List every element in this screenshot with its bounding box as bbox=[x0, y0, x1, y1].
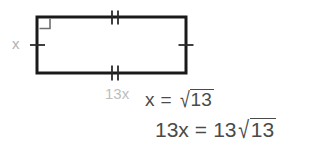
equation-2-radicand: 13 bbox=[250, 118, 276, 140]
right-angle-marker-icon bbox=[40, 19, 51, 29]
equation-2-operator: = bbox=[195, 119, 207, 140]
equation-1-radicand: 13 bbox=[190, 89, 214, 109]
equation-1-radical: √13 bbox=[178, 88, 214, 110]
side-length-label-x: x bbox=[12, 36, 20, 51]
equation-1-lhs: x bbox=[145, 90, 155, 109]
radical-sign-icon: √ bbox=[239, 118, 250, 142]
equation-line-1: x=√13 bbox=[145, 88, 214, 110]
equation-2-coefficient: 13 bbox=[213, 119, 236, 140]
equation-2-radical: √13 bbox=[236, 117, 276, 141]
equation-1-operator: = bbox=[161, 90, 172, 109]
equation-line-2: 13x=13√13 bbox=[155, 117, 276, 141]
base-length-label-13x: 13x bbox=[105, 86, 129, 101]
radical-sign-icon: √ bbox=[180, 89, 190, 111]
rectangle-shape bbox=[37, 17, 186, 73]
equation-2-lhs: 13x bbox=[155, 119, 189, 140]
figure-canvas: x 13x x=√13 13x=13√13 bbox=[0, 0, 311, 149]
